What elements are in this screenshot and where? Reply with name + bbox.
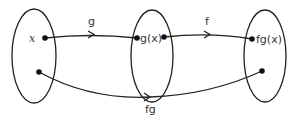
point-x [42,35,48,41]
function-composition-diagram: x g(x) fg(x) g f fg [0,0,291,122]
arrow-label-fg: fg [145,103,156,116]
point-codomain-lower [259,68,265,74]
point-gx-left [134,35,140,41]
arrow-label-g: g [88,15,95,28]
point-domain-lower [36,69,42,75]
arrow-label-f: f [205,15,210,28]
point-fgx [249,36,255,42]
label-x: x [29,32,36,45]
label-fgx: fg(x) [256,33,282,46]
label-gx: g(x) [140,32,162,45]
domain-set-ellipse [12,9,56,103]
arrow-g-head [88,31,94,38]
arrow-fg [39,71,262,97]
middle-set-ellipse [131,10,173,102]
codomain-set-ellipse [244,10,286,102]
